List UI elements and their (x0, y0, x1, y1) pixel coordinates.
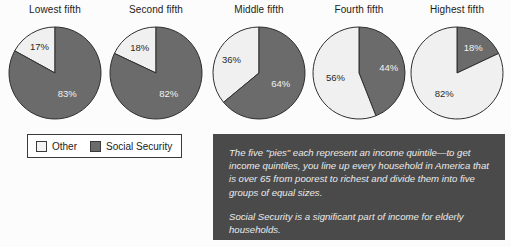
legend-item-other[interactable]: Other (36, 141, 77, 152)
legend-item-social-security[interactable]: Social Security (90, 141, 172, 152)
note-paragraph-1: The five "pies" each represent an income… (229, 146, 489, 199)
pie-graphic: 17%83% (4, 22, 106, 124)
pie-slice-label: 82% (435, 88, 455, 99)
pie-graphic: 44%56% (308, 22, 410, 124)
pie-slice-label: 18% (130, 42, 150, 53)
pie-graphic: 36%64% (208, 22, 310, 124)
pie-chart-figure: Lowest fifth17%83%Second fifth18%82%Midd… (0, 0, 511, 247)
pie-slice-label: 18% (464, 42, 484, 53)
pie-title: Second fifth (105, 4, 207, 15)
note-paragraph-2: Social Security is a significant part of… (229, 210, 489, 236)
pie-title: Fourth fifth (308, 4, 410, 15)
pie-slice-label: 82% (159, 88, 179, 99)
pie-title: Lowest fifth (4, 4, 106, 15)
pie-graphic: 18%82% (105, 22, 207, 124)
pie-chart-1: Lowest fifth17%83% (4, 0, 106, 128)
pie-slice-label: 44% (379, 62, 399, 73)
pie-title: Highest fifth (406, 4, 508, 15)
legend-label: Other (52, 141, 77, 152)
pie-slice-label: 17% (30, 41, 50, 52)
pie-chart-3: Middle fifth36%64% (208, 0, 310, 128)
note-callout-box: The five "pies" each represent an income… (213, 134, 505, 240)
legend-label: Social Security (106, 141, 172, 152)
pie-chart-row: Lowest fifth17%83%Second fifth18%82%Midd… (0, 0, 511, 128)
pie-slice-label: 64% (271, 78, 291, 89)
pie-chart-5: Highest fifth18%82% (406, 0, 508, 128)
pie-title: Middle fifth (208, 4, 310, 15)
pie-slice-label: 83% (58, 88, 78, 99)
pie-chart-4: Fourth fifth44%56% (308, 0, 410, 128)
pie-slice-label: 36% (222, 54, 242, 65)
pie-graphic: 18%82% (406, 22, 508, 124)
chart-legend: OtherSocial Security (27, 134, 182, 158)
legend-swatch-icon (90, 141, 101, 152)
legend-swatch-icon (36, 141, 47, 152)
pie-chart-2: Second fifth18%82% (105, 0, 207, 128)
pie-slice-label: 56% (326, 72, 346, 83)
